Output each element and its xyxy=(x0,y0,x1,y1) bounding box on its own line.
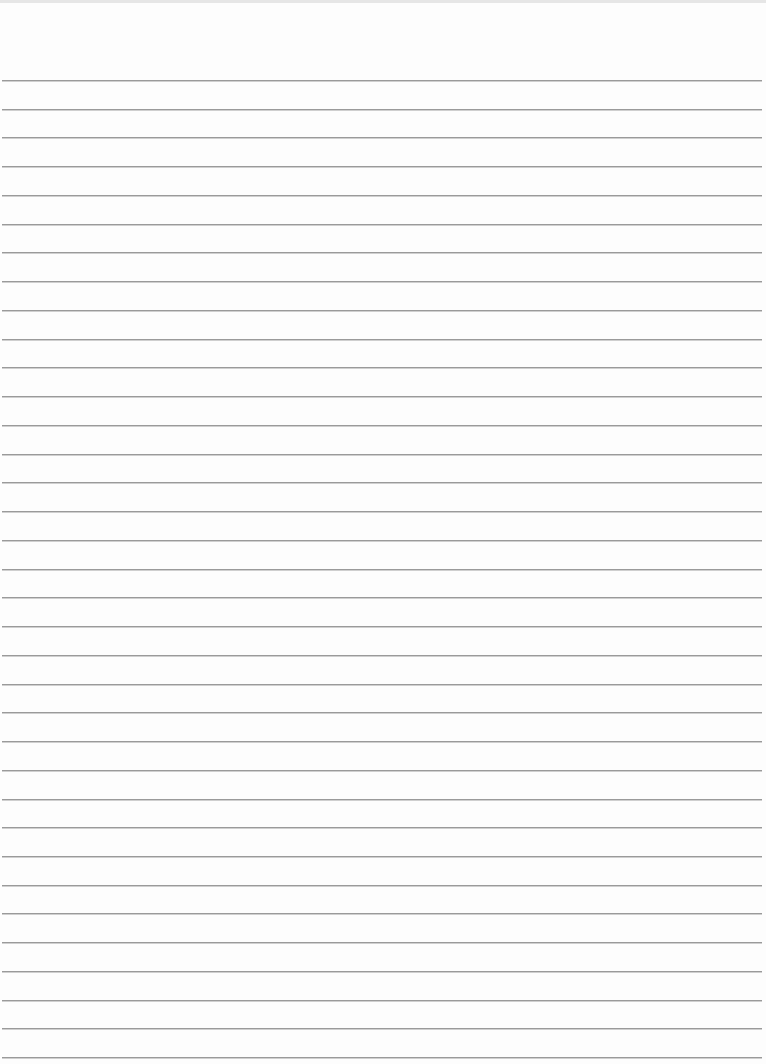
ruled-line xyxy=(2,109,762,111)
ruled-line xyxy=(2,655,762,657)
ruled-line xyxy=(2,396,762,398)
ruled-line xyxy=(2,540,762,542)
ruled-line xyxy=(2,281,762,283)
ruled-line xyxy=(2,885,762,887)
ruled-line xyxy=(2,712,762,714)
ruled-line xyxy=(2,224,762,226)
ruled-line xyxy=(2,942,762,944)
paper-top-edge xyxy=(0,0,766,3)
ruled-line xyxy=(2,195,762,197)
ruled-line xyxy=(2,856,762,858)
ruled-line xyxy=(2,1000,762,1002)
ruled-line xyxy=(2,80,762,82)
ruled-line xyxy=(2,684,762,686)
ruled-line xyxy=(2,310,762,312)
ruled-line xyxy=(2,425,762,427)
ruled-line xyxy=(2,1028,762,1030)
ruled-line xyxy=(2,367,762,369)
ruled-line xyxy=(2,597,762,599)
ruled-line xyxy=(2,137,762,139)
ruled-line xyxy=(2,741,762,743)
ruled-line xyxy=(2,482,762,484)
ruled-line xyxy=(2,827,762,829)
ruled-line xyxy=(2,913,762,915)
ruled-line xyxy=(2,971,762,973)
ruled-line xyxy=(2,1057,762,1059)
ruled-line xyxy=(2,252,762,254)
lined-paper xyxy=(0,0,766,1064)
ruled-line xyxy=(2,626,762,628)
ruled-line xyxy=(2,166,762,168)
ruled-line xyxy=(2,511,762,513)
ruled-line xyxy=(2,569,762,571)
ruled-line xyxy=(2,339,762,341)
ruled-line xyxy=(2,770,762,772)
ruled-line xyxy=(2,799,762,801)
ruled-line xyxy=(2,454,762,456)
